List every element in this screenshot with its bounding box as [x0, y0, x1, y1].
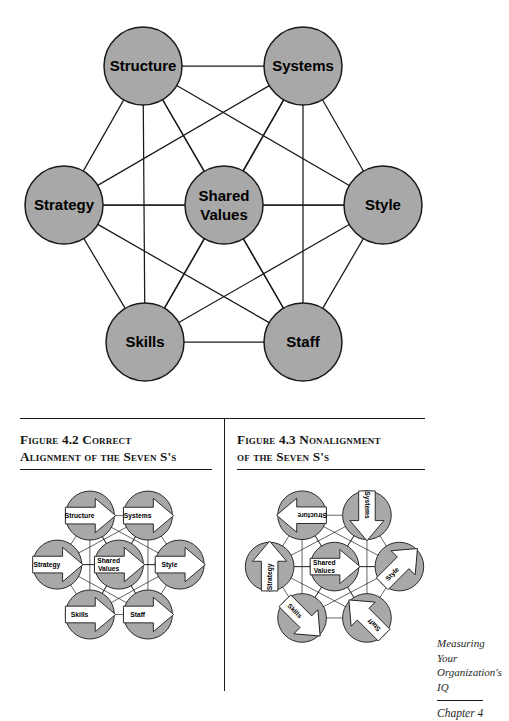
figure-4-2-caption-rule [20, 469, 212, 470]
mini-diagram-node-style: Style [155, 540, 205, 589]
diagram-node-label: Skills [125, 333, 164, 350]
mini-diagram-node-label: Systems [124, 512, 152, 520]
diagram-edge [164, 239, 204, 308]
mini-diagram-node-label: Skills [71, 611, 89, 618]
figure-4-2-panel: Figure 4.2 Correct Alignment of the Seve… [20, 428, 216, 654]
figure-4-3-diagram-wrap: StructureSystemsStrategySharedValuesStyl… [237, 481, 432, 658]
diagram-node-label: Structure [110, 57, 177, 74]
mini-diagram-edge [315, 586, 322, 598]
mini-diagram-node-label: Shared [313, 559, 336, 566]
diagram-node-label: Strategy [34, 196, 95, 213]
mini-diagram-nodes: StructureSystemsStrategySharedValuesStyl… [33, 491, 206, 639]
diagram-edge [143, 105, 144, 303]
mini-diagram-node-label: Values [314, 567, 335, 574]
mini-diagram-nodes: StructureSystemsStrategySharedValuesStyl… [245, 491, 429, 648]
diagram-node-label: Staff [286, 333, 320, 350]
figure-4-3-caption: Figure 4.3 Nonalignment of the Seven S's [237, 428, 432, 468]
panel-divider-rule [224, 419, 225, 691]
mini-diagram-node-label: Values [98, 565, 120, 572]
mini-diagram-node-label: Shared [97, 557, 120, 564]
mini-diagram-node-label: Staff [130, 611, 146, 618]
mini-diagram-node-label: Strategy [33, 561, 60, 569]
nonalignment-mini-diagram: StructureSystemsStrategySharedValuesStyl… [237, 481, 432, 654]
diagram-node-staff: Staff [264, 303, 342, 381]
page-canvas: StructureSystemsStrategySharedValuesStyl… [0, 0, 509, 721]
mini-diagram-node-label: Structure [65, 512, 95, 519]
footer-rule [437, 700, 483, 701]
mini-diagram-edge [282, 535, 289, 547]
mini-diagram-node-label: Structure [297, 512, 327, 519]
diagram-edge [323, 239, 364, 309]
mini-diagram-node-strategy: Strategy [245, 541, 294, 591]
diagram-edge [84, 239, 125, 309]
diagram-edge [83, 100, 123, 171]
figure-4-2-caption: Figure 4.2 Correct Alignment of the Seve… [20, 428, 216, 468]
mini-diagram-node-label: Systems [363, 491, 371, 519]
mini-diagram-edge [70, 535, 77, 545]
mini-diagram-node-staff: Staff [337, 588, 396, 647]
footer-book-title-line2: Organization's [437, 665, 507, 680]
seven-s-framework-diagram: StructureSystemsStrategySharedValuesStyl… [0, 0, 509, 400]
diagram-edge [322, 100, 363, 171]
mini-diagram-edge [379, 586, 386, 598]
diagram-node-label: Systems [272, 57, 334, 74]
correct-alignment-mini-diagram: StructureSystemsStrategySharedValuesStyl… [20, 481, 216, 650]
diagram-node-structure: Structure [104, 27, 182, 105]
diagram-nodes: StructureSystemsStrategySharedValuesStyl… [25, 27, 422, 381]
footer-book-title-line3: IQ [437, 680, 507, 695]
figure-4-3-caption-rule [237, 469, 425, 470]
figure-4-3-panel: Figure 4.3 Nonalignment of the Seven S's… [237, 428, 432, 658]
mini-diagram-node-structure: Structure [277, 491, 328, 540]
footer-book-title-line1: Measuring Your [437, 636, 507, 665]
mini-diagram-node-skills: Skills [65, 590, 115, 639]
diagram-node-strategy: Strategy [25, 166, 103, 244]
mini-diagram-node-skills: Skills [273, 589, 332, 648]
mini-diagram-node-staff: Staff [123, 590, 173, 639]
diagram-node-label: Shared [199, 187, 250, 204]
diagram-node-shared_values: SharedValues [185, 166, 263, 244]
mini-diagram-edge [379, 535, 386, 547]
mini-diagram-node-label: Strategy [266, 563, 274, 590]
diagram-node-skills: Skills [106, 303, 184, 381]
mini-diagram-edge [70, 584, 77, 595]
figure-4-2-diagram-wrap: StructureSystemsStrategySharedValuesStyl… [20, 481, 216, 654]
footer-chapter: Chapter 4 [437, 706, 507, 721]
section-top-rule [20, 418, 425, 419]
mini-diagram-node-label: Style [161, 561, 177, 569]
page-footer: Measuring Your Organization's IQ Chapter… [437, 636, 507, 721]
mini-diagram-node-strategy: Strategy [33, 540, 83, 589]
diagram-node-systems: Systems [264, 27, 342, 105]
mini-diagram-node-shared_values: SharedValues [94, 540, 144, 589]
mini-diagram-node-shared_values: SharedValues [310, 542, 360, 591]
mini-diagram-edge [161, 535, 167, 545]
mini-diagram-node-structure: Structure [65, 491, 116, 540]
mini-diagram-edge [282, 586, 289, 598]
diagram-node-label: Style [365, 196, 401, 213]
mini-diagram-edge [161, 584, 168, 594]
mini-diagram-node-systems: Systems [123, 491, 173, 540]
mini-diagram-node-systems: Systems [343, 491, 392, 541]
diagram-node-style: Style [344, 166, 422, 244]
mini-diagram-node-style: Style [370, 536, 429, 595]
diagram-node-label: Values [200, 206, 248, 223]
